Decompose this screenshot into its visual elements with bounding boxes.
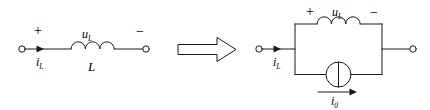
equivalence-arrow-group [178,38,236,62]
left-circuit-inductance-label: L [88,60,95,73]
left-circuit-voltage-label: uL [82,28,92,43]
left-circuit-left-terminal [19,46,25,52]
right-current-subscript: L [276,62,280,71]
circuit-vector-layer [0,0,430,110]
right-circuit-current-label: iL [273,56,280,71]
left-circuit-plus-sign: + [34,24,42,38]
left-circuit-current-arrowhead [37,46,45,53]
right-circuit-left-terminal [256,46,262,52]
left-circuit-group [19,42,149,53]
left-voltage-subscript: L [88,34,92,43]
right-voltage-subscript: L [338,12,342,21]
right-circuit-plus-sign: + [306,5,314,19]
left-circuit-right-terminal [143,46,149,52]
circuit-diagram-canvas: + − uL iL L + − uL iL i0 [0,0,430,110]
right-circuit-minus-sign: − [370,6,378,20]
left-circuit-inductor-coil [71,42,114,49]
left-circuit-current-label: iL [36,56,43,71]
source-current-arrowhead [350,89,358,96]
right-circuit-current-arrowhead [274,46,282,53]
equivalence-arrow-shape [178,38,236,62]
source-current-subscript: 0 [334,101,338,110]
source-current-label: i0 [331,95,338,110]
right-circuit-voltage-label: uL [332,6,342,21]
left-current-subscript: L [39,62,43,71]
right-circuit-right-terminal [410,46,416,52]
left-circuit-minus-sign: − [136,25,144,39]
